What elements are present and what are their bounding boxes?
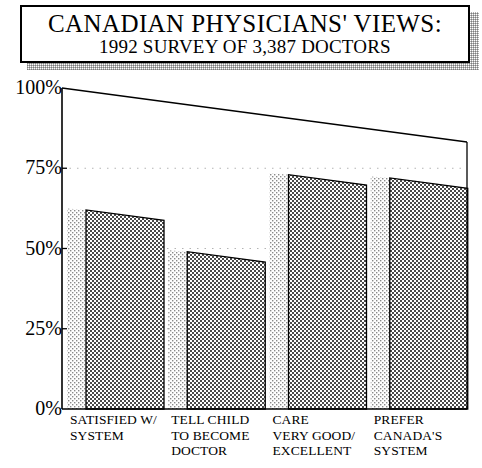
x-category-line: TELL CHILD: [171, 412, 249, 428]
chart-svg: [0, 0, 482, 468]
x-category-label-1: SATISFIED W/SYSTEM: [70, 412, 157, 443]
bars-group: [67, 173, 468, 409]
y-tick-100pct: 100%: [4, 77, 62, 97]
y-tick-75pct: 75%: [4, 157, 62, 177]
x-category-label-3: CAREVERY GOOD/EXCELLENT: [273, 412, 356, 459]
bar-face: [187, 252, 265, 409]
x-category-line: TO BECOME: [171, 428, 249, 444]
x-category-line: VERY GOOD/: [273, 428, 356, 444]
x-category-line: SATISFIED W/: [70, 412, 157, 428]
y-tick-50pct: 50%: [4, 238, 62, 258]
x-category-line: DOCTOR: [171, 443, 249, 459]
bar-side-panel: [270, 173, 289, 409]
bar-face: [86, 210, 164, 409]
x-category-line: EXCELLENT: [273, 443, 356, 459]
x-category-line: CARE: [273, 412, 356, 428]
chart-plot-area: [0, 0, 482, 468]
bar-face: [289, 175, 367, 409]
x-category-line: SYSTEM: [374, 443, 443, 459]
bar-1: [67, 209, 164, 409]
bar-face: [390, 178, 468, 409]
bar-side-panel: [168, 250, 187, 409]
bar-4: [371, 176, 468, 409]
y-axis-labels: 0%25%50%75%100%: [0, 0, 62, 468]
bar-3: [270, 173, 367, 409]
x-axis-labels: SATISFIED W/SYSTEMTELL CHILDTO BECOMEDOC…: [0, 412, 482, 468]
x-category-label-2: TELL CHILDTO BECOMEDOCTOR: [171, 412, 249, 459]
x-category-line: SYSTEM: [70, 428, 157, 444]
x-category-label-4: PREFERCANADA'SSYSTEM: [374, 412, 443, 459]
x-category-line: CANADA'S: [374, 428, 443, 444]
bar-2: [168, 250, 265, 409]
bar-side-panel: [67, 209, 86, 409]
x-category-line: PREFER: [374, 412, 443, 428]
bar-side-panel: [371, 176, 390, 409]
y-tick-25pct: 25%: [4, 318, 62, 338]
